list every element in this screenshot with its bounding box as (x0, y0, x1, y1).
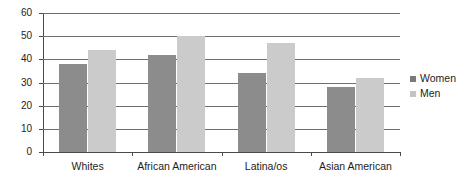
x-tick-mark (43, 152, 44, 156)
legend-item-women[interactable]: Women (410, 72, 456, 85)
legend-label: Men (420, 88, 440, 99)
plot-area (43, 13, 400, 152)
bar-men-whites (88, 50, 116, 152)
bar-men-asian-american (356, 78, 384, 152)
x-category-label: African American (132, 160, 221, 172)
bar-women-latina-os (238, 73, 266, 152)
bar-group (132, 13, 221, 152)
x-tick-mark (132, 152, 133, 156)
legend-swatch-icon (410, 76, 416, 82)
x-category-label: Latina/os (222, 160, 311, 172)
y-tick-label: 0 (12, 147, 32, 157)
x-tick-mark (222, 152, 223, 156)
y-tick-label: 40 (12, 54, 32, 64)
y-tick-label: 10 (12, 124, 32, 134)
bar-group (43, 13, 132, 152)
x-category-label: Asian American (311, 160, 400, 172)
y-tick-label: 50 (12, 31, 32, 41)
x-tick-mark (311, 152, 312, 156)
bar-men-latina-os (267, 43, 295, 152)
chart-legend: WomenMen (410, 72, 456, 102)
bar-group (311, 13, 400, 152)
legend-label: Women (420, 73, 456, 84)
legend-swatch-icon (410, 91, 416, 97)
bar-chart: 0102030405060 WhitesAfrican AmericanLati… (0, 0, 475, 182)
x-tick-mark (400, 152, 401, 156)
bar-women-whites (59, 64, 87, 152)
bar-women-african-american (148, 55, 176, 152)
bar-women-asian-american (327, 87, 355, 152)
x-category-label: Whites (43, 160, 132, 172)
y-tick-label: 30 (12, 78, 32, 88)
legend-item-men[interactable]: Men (410, 87, 456, 100)
y-tick-label: 60 (12, 8, 32, 18)
y-tick-label: 20 (12, 101, 32, 111)
bar-men-african-american (177, 36, 205, 152)
bar-group (222, 13, 311, 152)
